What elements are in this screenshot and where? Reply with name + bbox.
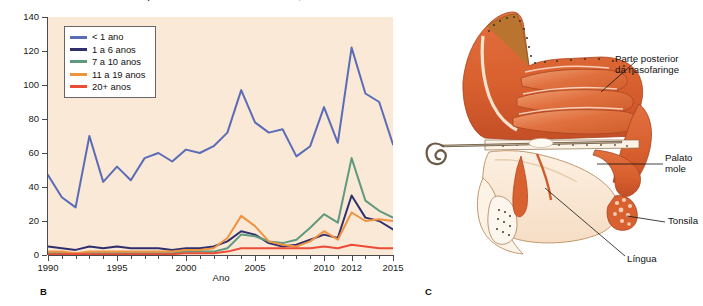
legend-item-0: < 1 ano xyxy=(70,31,146,43)
y-axis-tick xyxy=(42,51,47,52)
y-axis-tick xyxy=(42,221,47,222)
panel-b-letter: B xyxy=(40,286,47,297)
legend-item-3: 11 a 19 anos xyxy=(70,68,146,80)
x-axis-tick xyxy=(241,256,242,259)
x-axis-tick xyxy=(324,256,325,261)
x-axis-tick xyxy=(158,256,159,259)
x-axis-tick xyxy=(393,256,394,261)
x-axis-tick xyxy=(269,256,270,259)
legend-item-1: 1 a 6 anos xyxy=(70,43,146,55)
x-axis-tick xyxy=(131,256,132,259)
y-axis-tick xyxy=(42,17,47,18)
y-axis-tick-label: 60 xyxy=(28,148,39,158)
y-axis-tick-label: 80 xyxy=(28,114,39,124)
panel-b-incidence-chart: 020406080100120140 Taxa de incidência (p… xyxy=(0,0,430,306)
x-axis-tick xyxy=(214,256,215,259)
x-axis-tick xyxy=(227,256,228,259)
x-axis-tick xyxy=(117,256,118,261)
x-axis-tick xyxy=(283,256,284,259)
x-axis-tick xyxy=(172,256,173,259)
y-axis-tick xyxy=(42,85,47,86)
x-axis-tick xyxy=(379,256,380,259)
legend-label: 1 a 6 anos xyxy=(92,45,136,54)
annotation-tongue: Língua xyxy=(627,253,657,264)
legend-label: < 1 ano xyxy=(92,32,124,41)
y-axis-tick xyxy=(42,119,47,120)
x-axis-tick xyxy=(365,256,366,259)
x-axis-tick xyxy=(352,256,353,261)
legend-label: 7 a 10 anos xyxy=(92,57,141,66)
y-axis-tick-label: 120 xyxy=(23,46,39,56)
legend-item-4: 20+ anos xyxy=(70,81,146,93)
y-axis-tick-label: 0 xyxy=(34,250,39,260)
legend-swatch-icon xyxy=(70,36,87,39)
annotation-soft-palate: Palato mole xyxy=(665,152,692,175)
x-axis-tick xyxy=(338,256,339,259)
chart-y-axis: 020406080100120140 xyxy=(47,17,48,255)
legend-swatch-icon xyxy=(70,60,87,63)
y-axis-tick xyxy=(42,187,47,188)
x-axis-tick xyxy=(255,256,256,261)
x-axis-tick xyxy=(145,256,146,259)
x-axis-tick xyxy=(76,256,77,259)
x-axis-tick xyxy=(296,256,297,259)
nasopharynx-sagittal-diagram xyxy=(425,0,703,270)
panel-c-letter: C xyxy=(425,286,432,297)
x-axis-tick xyxy=(310,256,311,259)
x-axis-tick xyxy=(48,256,49,261)
legend-label: 20+ anos xyxy=(92,82,131,91)
chart-x-axis: 1990199520002005201020122015 xyxy=(48,255,394,256)
legend-swatch-icon xyxy=(70,73,87,76)
legend-label: 11 a 19 anos xyxy=(92,70,146,79)
legend-item-2: 7 a 10 anos xyxy=(70,56,146,68)
chart-x-axis-title: Ano xyxy=(48,272,394,283)
x-axis-tick xyxy=(89,256,90,259)
x-axis-tick xyxy=(186,256,187,261)
legend-swatch-icon xyxy=(70,48,87,51)
y-axis-tick xyxy=(42,255,47,256)
legend-swatch-icon xyxy=(70,85,87,88)
panel-c-anatomy-illustration: Parte posterior da nasofaringe Palato mo… xyxy=(425,0,703,306)
x-axis-tick xyxy=(62,256,63,259)
annotation-tonsil: Tonsila xyxy=(668,215,698,226)
y-axis-tick-label: 140 xyxy=(23,12,39,22)
x-axis-tick xyxy=(200,256,201,259)
x-axis-tick xyxy=(103,256,104,259)
y-axis-tick-label: 20 xyxy=(28,216,39,226)
annotation-nasopharynx: Parte posterior da nasofaringe xyxy=(615,53,679,76)
chart-legend: < 1 ano1 a 6 anos7 a 10 anos11 a 19 anos… xyxy=(64,26,156,98)
y-axis-tick-label: 100 xyxy=(23,80,39,90)
y-axis-tick xyxy=(42,153,47,154)
y-axis-tick-label: 40 xyxy=(28,182,39,192)
